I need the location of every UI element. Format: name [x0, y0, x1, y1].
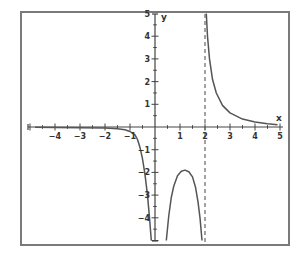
y-tick-label: 1 [144, 100, 150, 109]
x-tick-label: 4 [252, 132, 258, 141]
x-tick-label: −3 [74, 132, 86, 141]
x-tick-label: −4 [49, 132, 62, 141]
y-tick-label: 2 [144, 78, 150, 87]
y-axis-label: y [161, 12, 167, 22]
x-tick-label: −2 [99, 132, 111, 141]
y-tick-label: −1 [138, 146, 151, 155]
y-tick-label: −2 [138, 168, 150, 177]
x-axis-label: x [276, 113, 282, 123]
function-plot: −4−3−2−11234554321−1−2−3−4 x y [0, 0, 300, 257]
x-tick-label: 5 [277, 132, 283, 141]
x-tick-label: −1 [124, 132, 137, 141]
x-tick-label: 1 [177, 132, 183, 141]
y-tick-label: 5 [144, 10, 150, 19]
y-tick-label: −3 [138, 191, 150, 200]
y-tick-label: 3 [144, 55, 150, 64]
x-tick-label: 2 [202, 132, 208, 141]
y-tick-label: −4 [138, 214, 151, 223]
x-tick-label: 3 [227, 132, 233, 141]
y-tick-label: 4 [144, 32, 150, 41]
